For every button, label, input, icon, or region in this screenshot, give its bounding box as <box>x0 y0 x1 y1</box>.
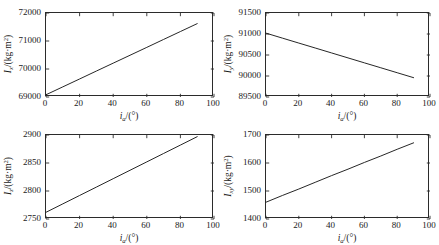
x-tick-label: 0 <box>263 221 268 230</box>
x-tick-label: 100 <box>422 221 436 230</box>
x-tick-label: 60 <box>359 221 368 230</box>
axes-frame <box>265 134 429 218</box>
y-tick-label: 1700 <box>229 130 261 139</box>
x-tick-label: 80 <box>392 221 401 230</box>
y-axis-label: Ixy/(kg·m2) <box>221 155 236 196</box>
x-tick-label: 40 <box>326 221 335 230</box>
plot-area <box>266 135 430 219</box>
y-tick-label: 1400 <box>229 214 261 223</box>
x-tick-label: 20 <box>293 221 302 230</box>
figure-canvas: 69000700007100072000020406080100ia/(°)Ix… <box>0 0 439 245</box>
chart-panel-bottom-right: 1400150016001700020406080100ia/(°)Ixy/(k… <box>0 0 439 245</box>
x-axis-label: ia/(°) <box>338 233 357 245</box>
data-line <box>266 143 414 202</box>
